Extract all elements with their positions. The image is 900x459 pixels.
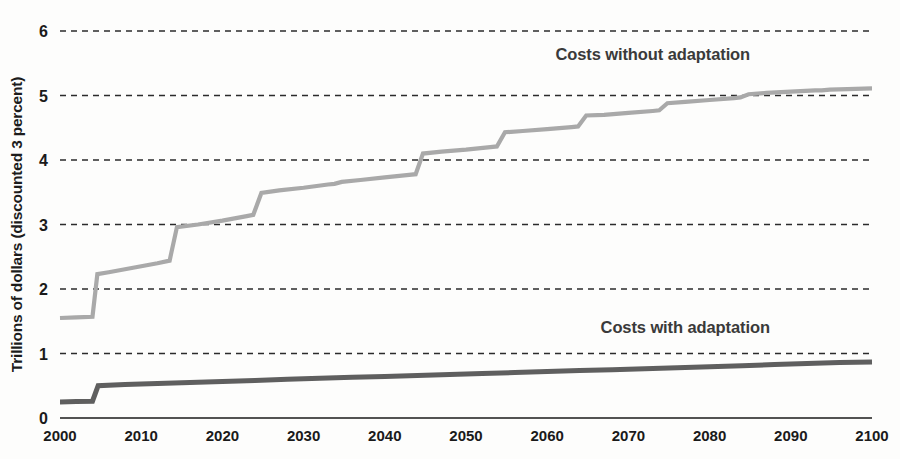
x-tick-label-2060: 2060 [531,427,564,444]
y-tick-label-0: 0 [39,410,48,427]
x-axis-tick-labels: 2000201020202030204020502060207020802090… [43,427,888,444]
data-series-group [60,88,872,401]
y-tick-label-1: 1 [39,346,48,363]
x-tick-label-2070: 2070 [612,427,645,444]
x-tick-label-2090: 2090 [774,427,807,444]
chart-container: 0123456 20002010202020302040205020602070… [0,0,900,459]
x-tick-label-2100: 2100 [855,427,888,444]
series-annotations-group: Costs without adaptationCosts with adapt… [555,45,770,336]
x-tick-label-2080: 2080 [693,427,726,444]
x-tick-label-2020: 2020 [206,427,239,444]
y-tick-label-2: 2 [39,281,48,298]
y-tick-label-4: 4 [39,152,48,169]
x-tick-label-2010: 2010 [125,427,158,444]
y-tick-label-5: 5 [39,88,48,105]
y-tick-label-6: 6 [39,23,48,40]
series-line-0 [60,88,872,318]
gridlines-group [60,31,872,354]
y-axis-tick-labels: 0123456 [39,23,48,427]
series-annotation-1: Costs with adaptation [601,318,770,336]
x-tick-label-2030: 2030 [287,427,320,444]
x-tick-label-2050: 2050 [449,427,482,444]
series-line-1 [60,362,872,402]
x-tick-label-2000: 2000 [43,427,76,444]
cost-of-climate-adaptation-line-chart: 0123456 20002010202020302040205020602070… [0,0,900,459]
y-axis-title: Trillions of dollars (discounted 3 perce… [8,77,25,372]
y-tick-label-3: 3 [39,217,48,234]
x-tick-label-2040: 2040 [368,427,401,444]
series-annotation-0: Costs without adaptation [555,45,750,63]
